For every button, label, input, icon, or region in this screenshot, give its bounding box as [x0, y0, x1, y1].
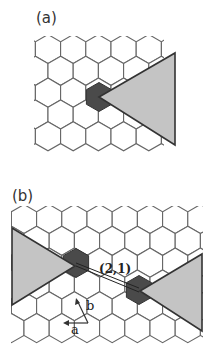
- hexagon-cell: [0, 292, 11, 321]
- hexagon-cell: [174, 100, 199, 129]
- basis-a-label: a: [71, 322, 79, 337]
- hexagon-cell: [10, 78, 35, 107]
- hexagon-cell: [174, 56, 199, 85]
- hexagon-cell: [10, 122, 35, 151]
- basis-b-label: b: [86, 298, 94, 313]
- hexagon-cell: [0, 205, 11, 234]
- hexagon-cell: [0, 248, 11, 277]
- hexagon-cell: [10, 35, 35, 64]
- lattice-figure: [0, 0, 212, 363]
- translation-vector-label: (2,1): [99, 262, 131, 276]
